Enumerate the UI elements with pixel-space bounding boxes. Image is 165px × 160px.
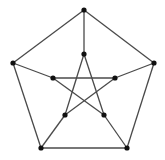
- graph-node: [151, 60, 156, 65]
- graph-edge: [53, 78, 104, 115]
- graph-node: [50, 75, 55, 80]
- graph-node: [81, 7, 86, 12]
- graph-node: [38, 145, 43, 150]
- graph-edge: [13, 63, 41, 148]
- graph-edge: [65, 78, 115, 115]
- graph-edge: [65, 54, 84, 115]
- graph-edge: [115, 63, 154, 78]
- graph-edge: [84, 10, 154, 63]
- graph-edges: [13, 10, 154, 148]
- graph-edge: [127, 63, 154, 148]
- graph-node: [124, 145, 129, 150]
- graph-edge: [13, 63, 53, 78]
- graph-edge: [41, 115, 65, 148]
- graph-edge: [13, 10, 84, 63]
- graph-node: [62, 112, 67, 117]
- graph-node: [112, 75, 117, 80]
- graph-node: [81, 51, 86, 56]
- graph-edge: [104, 115, 127, 148]
- graph-edge: [84, 54, 104, 115]
- graph-node: [101, 112, 106, 117]
- petersen-graph-diagram: [0, 0, 165, 160]
- graph-node: [10, 60, 15, 65]
